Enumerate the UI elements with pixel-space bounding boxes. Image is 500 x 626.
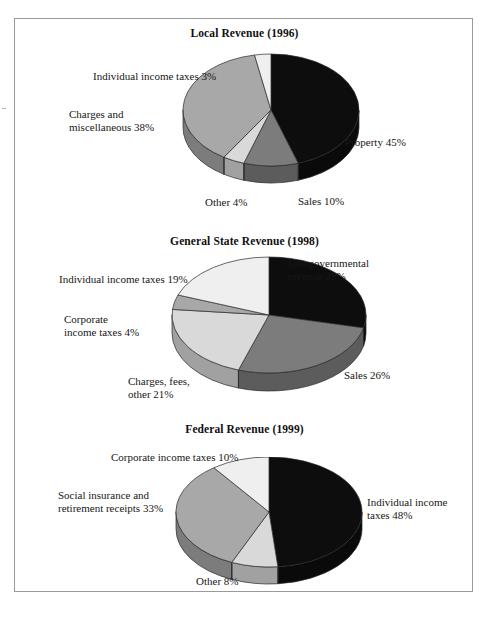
pie-label-federal-other: Other 8% bbox=[196, 575, 238, 589]
pie-label-federal-social-insurance-line2: retirement receipts 33% bbox=[58, 502, 163, 516]
pie-label-state-corporate-line1: Corporate bbox=[64, 313, 108, 327]
pie-label-state-corporate-line2: income taxes 4% bbox=[64, 326, 139, 340]
chart-title-local-revenue: Local Revenue (1996) bbox=[15, 27, 474, 39]
pie-label-local-property: Property 45% bbox=[345, 136, 406, 150]
pie-label-local-charges-line2: miscellaneous 38% bbox=[69, 121, 154, 135]
pie-label-federal-individual-line1: Individual income bbox=[367, 496, 447, 510]
page-canvas: Local Revenue (1996) Individual income t… bbox=[0, 0, 500, 626]
pie-label-state-charges-line1: Charges, fees, bbox=[128, 375, 190, 389]
scan-margin-mark bbox=[2, 108, 6, 109]
pie-label-local-sales: Sales 10% bbox=[298, 195, 344, 209]
chart-title-federal-revenue: Federal Revenue (1999) bbox=[15, 423, 474, 435]
pie-label-local-individual-income-taxes: Individual income taxes 3% bbox=[93, 70, 216, 84]
pie-label-state-intergovernmental-line2: revenue 28% bbox=[288, 270, 346, 284]
pie-label-state-intergovernmental-line1: Intergovernmental bbox=[288, 257, 369, 271]
chart-panel-federal-revenue: Federal Revenue (1999) Corporate income … bbox=[15, 409, 474, 593]
chart-panel-local-revenue: Local Revenue (1996) Individual income t… bbox=[15, 19, 474, 215]
pie-label-federal-social-insurance-line1: Social insurance and bbox=[58, 489, 149, 503]
figure-frame: Local Revenue (1996) Individual income t… bbox=[14, 18, 473, 592]
pie-label-state-sales: Sales 26% bbox=[344, 369, 390, 383]
pie-label-local-charges-line1: Charges and bbox=[69, 108, 123, 122]
chart-title-general-state-revenue: General State Revenue (1998) bbox=[15, 235, 474, 247]
pie-label-federal-individual-line2: taxes 48% bbox=[367, 509, 413, 523]
pie-label-federal-corporate-income-taxes: Corporate income taxes 10% bbox=[111, 451, 238, 465]
pie-label-state-charges-line2: other 21% bbox=[128, 388, 174, 402]
pie-label-state-individual-income-taxes: Individual income taxes 19% bbox=[59, 273, 188, 287]
pie-label-local-other: Other 4% bbox=[205, 196, 247, 210]
chart-panel-general-state-revenue: General State Revenue (1998) Intergovern… bbox=[15, 215, 474, 409]
